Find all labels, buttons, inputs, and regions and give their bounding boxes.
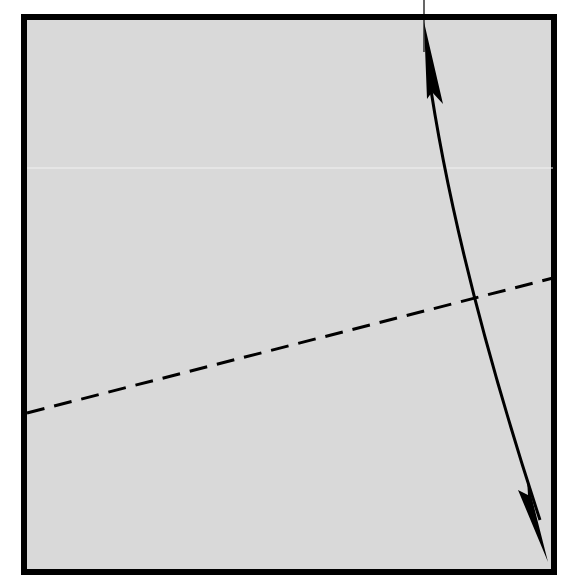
fold-diagram <box>0 0 576 586</box>
diagram-canvas <box>0 0 576 586</box>
